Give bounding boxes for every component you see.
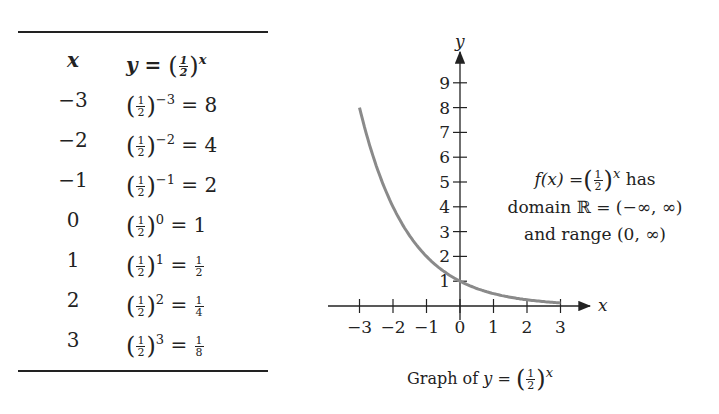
svg-text:7: 7	[439, 122, 450, 142]
annotation-line1: f(x) =(12)x has	[480, 160, 710, 194]
svg-text:6: 6	[439, 147, 450, 167]
svg-text:2: 2	[439, 246, 450, 266]
domain-range-annotation: f(x) =(12)x has domain ℝ = (−∞, ∞) and r…	[480, 160, 710, 248]
svg-text:−1: −1	[414, 317, 439, 337]
y-ticks: 123456789	[439, 73, 467, 291]
svg-text:0: 0	[455, 317, 466, 337]
svg-text:3: 3	[439, 222, 450, 242]
x-ticks: −3−2−10123	[347, 299, 566, 337]
svg-text:5: 5	[439, 172, 450, 192]
svg-text:−2: −2	[380, 317, 405, 337]
svg-text:−3: −3	[347, 317, 372, 337]
svg-text:8: 8	[439, 98, 450, 118]
svg-text:9: 9	[439, 73, 450, 93]
svg-text:2: 2	[522, 317, 533, 337]
graph-caption: Graph of y = (12)x	[370, 365, 590, 393]
svg-text:3: 3	[555, 317, 566, 337]
svg-text:4: 4	[439, 197, 450, 217]
annotation-line2: domain ℝ = (−∞, ∞)	[480, 194, 710, 221]
y-axis-label: y	[454, 31, 465, 51]
svg-text:1: 1	[488, 317, 499, 337]
annotation-line3: and range (0, ∞)	[480, 221, 710, 248]
x-axis-label: x	[598, 295, 608, 315]
